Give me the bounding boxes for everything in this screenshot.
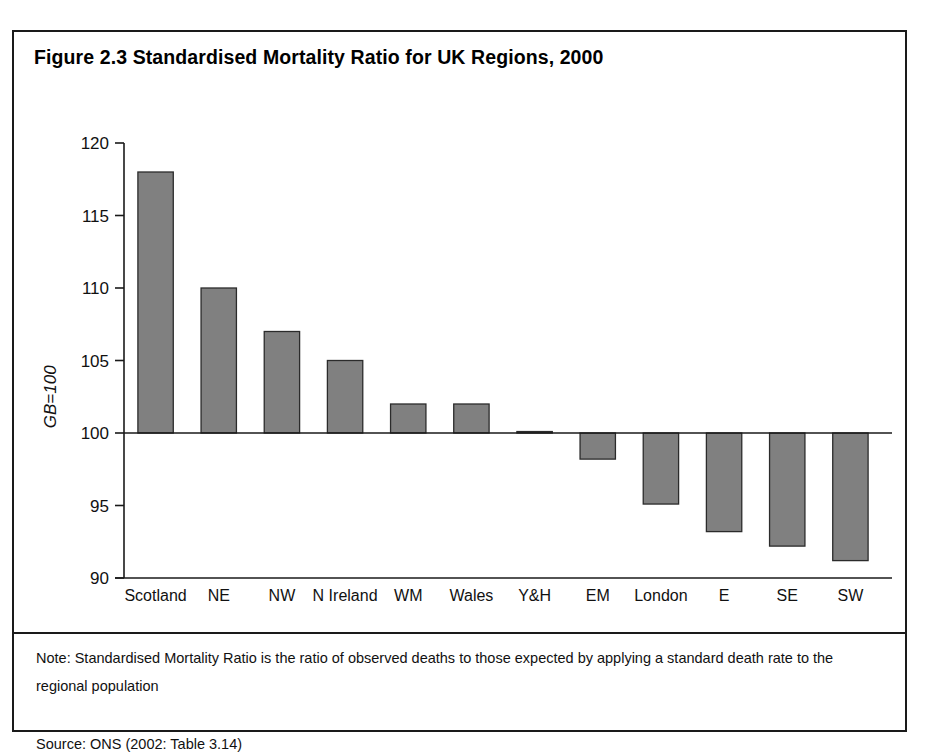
- chart-plot-area: 9095100105110115120 ScotlandNENWN Irelan…: [14, 70, 905, 630]
- y-tick-label: 90: [90, 569, 109, 588]
- y-tick-label: 95: [90, 497, 109, 516]
- x-tick-label: WM: [394, 587, 422, 604]
- y-tick-label: 120: [81, 134, 109, 153]
- bar-nw: [264, 332, 299, 434]
- bar-chart: 9095100105110115120 ScotlandNENWN Irelan…: [14, 70, 905, 630]
- y-axis-title-label: GB=100: [41, 365, 60, 428]
- bar-n-ireland: [327, 361, 362, 434]
- x-tick-label: SW: [838, 587, 865, 604]
- y-tick-label: 115: [82, 207, 109, 226]
- x-tick-label: N Ireland: [313, 587, 378, 604]
- x-tick-label: NW: [269, 587, 297, 604]
- bar-e: [706, 433, 741, 532]
- x-tick-label: London: [634, 587, 687, 604]
- bar-london: [643, 433, 678, 504]
- x-tick-label: Y&H: [518, 587, 551, 604]
- x-tick-label: EM: [586, 587, 610, 604]
- figure-note: Note: Standardised Mortality Ratio is th…: [36, 644, 881, 701]
- bar-sw: [833, 433, 868, 561]
- bar-em: [580, 433, 615, 459]
- figure-panel: Figure 2.3 Standardised Mortality Ratio …: [12, 30, 907, 732]
- bar-ne: [201, 288, 236, 433]
- bar-series: [138, 172, 868, 561]
- y-axis-title: GB=100: [41, 365, 60, 428]
- x-tick-label: NE: [208, 587, 230, 604]
- bar-scotland: [138, 172, 173, 433]
- y-tick-label: 105: [81, 352, 109, 371]
- x-axis: ScotlandNENWN IrelandWMWalesY&HEMLondonE…: [115, 578, 892, 604]
- x-tick-label: E: [719, 587, 730, 604]
- bar-se: [770, 433, 805, 546]
- bar-wm: [391, 404, 426, 433]
- x-tick-label: SE: [777, 587, 798, 604]
- bar-wales: [454, 404, 489, 433]
- notes-block: Note: Standardised Mortality Ratio is th…: [36, 644, 881, 754]
- x-tick-label: Scotland: [124, 587, 186, 604]
- y-tick-label: 110: [82, 279, 109, 298]
- y-tick-label: 100: [81, 424, 109, 443]
- notes-divider: [14, 632, 905, 634]
- x-tick-label: Wales: [449, 587, 493, 604]
- figure-title: Figure 2.3 Standardised Mortality Ratio …: [34, 46, 603, 69]
- y-axis: 9095100105110115120: [81, 134, 124, 588]
- figure-source: Source: ONS (2002: Table 3.14): [36, 731, 881, 754]
